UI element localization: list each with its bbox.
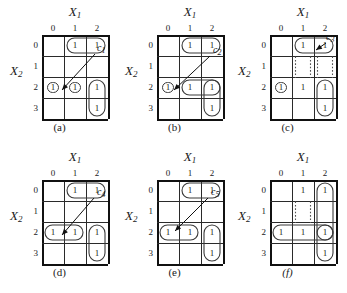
group-ellipse-vertical (204, 80, 220, 116)
annotation-label-c3: c3 (326, 32, 334, 45)
group-ellipse-vertical (89, 80, 105, 116)
annotation-label-c5: c5 (211, 187, 219, 200)
panel-caption-c: (c) (230, 122, 345, 133)
group-ellipse-horizontal (273, 225, 333, 240)
panel-caption-d: (d) (2, 267, 117, 278)
annotation-label-c4: c4 (97, 187, 105, 200)
group-ellipse-horizontal (182, 80, 220, 95)
annotation-label-c2: c2 (213, 45, 221, 58)
panel-caption-f: (f) (230, 267, 345, 278)
group-ellipse-single (70, 83, 81, 93)
kmap-panel-d: X1X20120123111111c4(d) (2, 147, 117, 293)
annotation-label-sub: 2 (217, 48, 221, 57)
panel-caption-b: (b) (117, 122, 232, 133)
kmap-panel-c: X1X20120123111111c3(c) (230, 2, 345, 148)
annotation-label-sub: 3 (330, 35, 334, 44)
group-ellipse-vertical (89, 225, 105, 261)
group-ellipse-single (48, 83, 59, 93)
group-ellipse-single (163, 83, 174, 93)
kmap-panel-a: X1X20120123111111c1(a) (2, 2, 117, 148)
kmap-panel-b: X1X20120123111111c2(b) (117, 2, 232, 148)
annotation-arrowhead (316, 44, 322, 50)
annotation-label-sub: 4 (101, 190, 105, 199)
kmap-panel-e: X1X20120123111111c5(e) (117, 147, 232, 293)
annotation-label-c1: c1 (97, 43, 105, 56)
group-ellipse-vertical (204, 225, 220, 261)
annotation-leader-line (175, 198, 208, 231)
group-ellipse-vertical (317, 225, 333, 261)
kmap-panel-f: X1X20120123111111(f) (230, 147, 345, 293)
panel-caption-e: (e) (117, 267, 232, 278)
group-ellipse-vertical (317, 80, 333, 116)
group-ellipse-vertical (317, 183, 333, 240)
panel-caption-a: (a) (2, 122, 117, 133)
annotation-label-sub: 5 (215, 190, 219, 199)
group-ellipse-single (276, 83, 287, 93)
kmap-figure: X1X20120123111111c1(a)X1X20120123111111c… (0, 0, 347, 293)
annotation-label-sub: 1 (101, 46, 105, 55)
